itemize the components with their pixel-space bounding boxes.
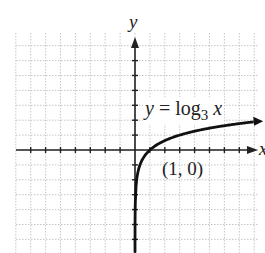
equation-log: log (175, 97, 201, 119)
y-axis-label: y (129, 11, 137, 33)
log-graph: y x y = log3 x (1, 0) (0, 0, 265, 253)
x-axis (16, 146, 258, 154)
equation-y: y (145, 97, 154, 119)
graph-canvas (0, 0, 265, 253)
equation-x: x (213, 97, 222, 119)
equation-base: 3 (201, 107, 209, 123)
curve-arrowhead (253, 117, 263, 126)
equation-equals: = (159, 97, 170, 119)
x-axis-label: x (259, 138, 265, 160)
grid-lines (16, 33, 258, 253)
point-label: (1, 0) (162, 158, 203, 180)
equation-label: y = log3 x (143, 97, 224, 124)
